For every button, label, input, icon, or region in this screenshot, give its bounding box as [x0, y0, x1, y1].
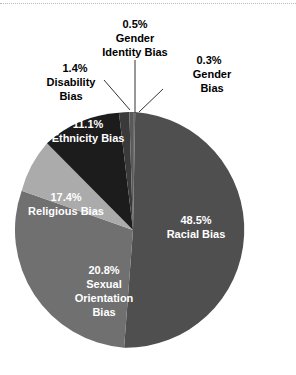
label-racial-line2: Racial Bias [167, 228, 226, 240]
label-religious-percent: 17.4% [50, 191, 81, 203]
label-racial-percent: 48.5% [180, 214, 211, 226]
label-gender-identity-percent: 0.5% [122, 18, 147, 30]
pie-chart-figure: 0.5% Gender Identity Bias 0.3% Gender Bi… [0, 0, 296, 375]
label-sexual-orientation-percent: 20.8% [88, 264, 119, 276]
label-sexual-orientation-line4: Bias [92, 306, 115, 318]
label-sexual-orientation-line3: Orientation [75, 292, 134, 304]
label-ethnicity-percent: 11.1% [73, 118, 104, 130]
label-disability-percent: 1.4% [62, 62, 87, 74]
label-gender-percent: 0.3% [196, 54, 221, 66]
label-gender-identity-line3: Identity Bias [102, 46, 167, 58]
label-gender-line2: Gender [193, 68, 232, 80]
label-gender-line3: Bias [200, 82, 223, 94]
leader-line-gender [139, 89, 163, 112]
pie-chart-svg: 0.5% Gender Identity Bias 0.3% Gender Bi… [0, 0, 296, 375]
label-disability-line3: Bias [59, 90, 82, 102]
leader-line-disability [104, 80, 130, 110]
label-religious-line2: Religious Bias [28, 205, 104, 217]
label-disability-line2: Disability [47, 76, 97, 88]
label-gender-identity-line2: Gender [116, 32, 155, 44]
label-sexual-orientation-line2: Sexual [86, 278, 121, 290]
label-ethnicity-line2: Ethnicity Bias [52, 132, 125, 144]
